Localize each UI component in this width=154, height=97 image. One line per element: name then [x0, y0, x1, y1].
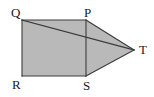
vertex-label-t: T	[139, 43, 147, 56]
vertex-label-q: Q	[11, 6, 20, 19]
vertex-label-p: P	[84, 6, 91, 19]
geometry-diagram	[0, 0, 154, 97]
geometry-figure: Q P T R S	[0, 0, 154, 97]
vertex-label-r: R	[12, 78, 21, 91]
vertex-label-s: S	[83, 79, 90, 92]
